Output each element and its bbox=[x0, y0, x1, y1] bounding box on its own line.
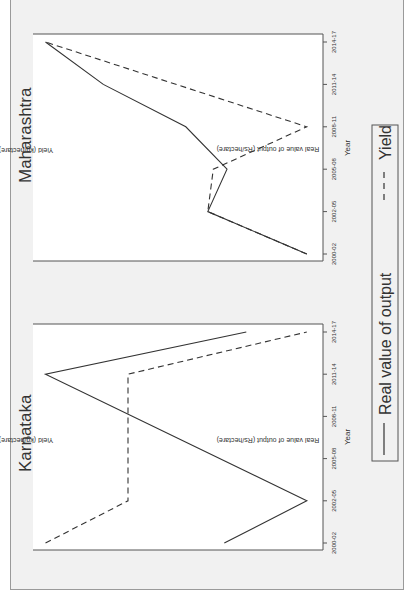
x-tick-label: 2014-17 bbox=[331, 320, 337, 343]
x-tick-label: 2005-08 bbox=[331, 158, 337, 181]
x-axis-ticks: 2000-022002-052005-082008-112011-142014-… bbox=[323, 320, 337, 554]
left-y-axis-label: Real value of output (Rs/hectare) bbox=[217, 145, 320, 153]
plot-area bbox=[33, 324, 323, 550]
chart-canvas: 2000-022002-052005-082008-112011-142014-… bbox=[0, 0, 408, 594]
right-y-axis-label: Yield (kg/hectare) bbox=[0, 436, 53, 444]
x-tick-label: 2005-08 bbox=[331, 447, 337, 470]
left-y-axis-label: Real value of output (Rs/hectare) bbox=[217, 436, 320, 444]
x-tick-label: 2011-14 bbox=[331, 363, 337, 385]
x-tick-label: 2011-14 bbox=[331, 73, 337, 95]
legend-label-output: Real value of output bbox=[377, 272, 394, 415]
x-tick-label: 2002-05 bbox=[331, 200, 337, 223]
x-tick-label: 2002-05 bbox=[331, 489, 337, 512]
x-axis-ticks: 2000-022002-052005-082008-112011-142014-… bbox=[323, 30, 337, 265]
legend-label-yield: Yield bbox=[377, 125, 394, 160]
x-tick-label: 2008-11 bbox=[331, 115, 337, 137]
x-tick-label: 2000-02 bbox=[331, 531, 337, 554]
legend: Real value of output Yield bbox=[372, 125, 398, 461]
x-tick-label: 2000-02 bbox=[331, 242, 337, 265]
panel-title: Karnataka bbox=[16, 394, 35, 472]
panel-title: Maharashtra bbox=[16, 87, 35, 183]
x-axis-label: Year bbox=[343, 140, 352, 157]
x-tick-label: 2008-11 bbox=[331, 405, 337, 427]
panel-karnataka: 2000-022002-052005-082008-112011-142014-… bbox=[0, 320, 352, 554]
panel-maharashtra: 2000-022002-052005-082008-112011-142014-… bbox=[0, 30, 352, 265]
x-axis-label: Year bbox=[343, 429, 352, 446]
x-tick-label: 2014-17 bbox=[331, 30, 337, 53]
figure: 2000-022002-052005-082008-112011-142014-… bbox=[0, 0, 408, 594]
right-y-axis-label: Yield (kg/hectare) bbox=[0, 146, 53, 154]
